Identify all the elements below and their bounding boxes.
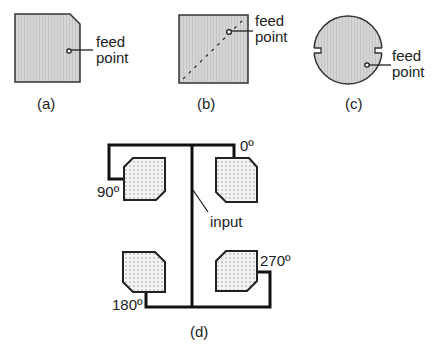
input-label: input [210,213,243,230]
feed-point-marker [227,30,232,35]
feed-label-line2: point [255,28,288,45]
patch-top-right-0deg [216,158,257,202]
circular-patch [314,16,382,84]
phase-label-0: 0º [240,137,254,154]
phase-label-90: 90º [97,183,120,200]
phase-label-180: 180º [112,296,143,313]
patch-bottom-right-270deg [216,251,257,291]
patch-top-left-90deg [124,158,165,200]
caption-c: (c) [345,95,363,112]
feed-label-line1: feed [392,47,421,64]
feed-label-line1: feed [255,12,284,29]
panel-b: feed point (b) [179,12,288,112]
left-notch [312,48,321,53]
input-leader-line [193,190,208,212]
feed-point-marker [365,63,369,67]
feed-label-line2: point [96,49,129,66]
caption-b: (b) [197,95,215,112]
caption-a: (a) [37,95,55,112]
truncated-corner-patch [15,14,80,82]
caption-d: (d) [190,323,208,340]
phase-label-270: 270º [260,252,291,269]
panel-a: feed point (a) [15,14,129,112]
panel-d: input 0º 90º 180º 270º (d) [97,137,291,340]
panel-c: feed point (c) [312,16,425,112]
feed-point-marker [67,49,71,53]
feed-label-line2: point [392,63,425,80]
patch-bottom-left-180deg [123,252,165,292]
antenna-figure: feed point (a) feed point (b) feed point… [0,0,442,355]
feed-label-line1: feed [96,33,125,50]
right-notch [375,48,385,53]
